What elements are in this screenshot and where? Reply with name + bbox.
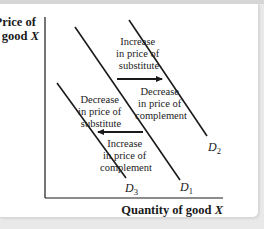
demand-shift-diagram: Price of good X Quantity of good X D2 D1… bbox=[0, 0, 264, 229]
y-axis-label: Price of good X bbox=[0, 15, 40, 43]
x-axis-label: Quantity of good X bbox=[121, 203, 223, 217]
rightward-shift-cause-above: Increase in price of substitute bbox=[116, 36, 162, 71]
leftward-shift-cause-below: Increase in price of complement bbox=[100, 138, 152, 173]
curve-label-d3: D3 bbox=[124, 181, 138, 197]
curve-label-d2: D2 bbox=[207, 140, 221, 156]
curve-label-d1: D1 bbox=[179, 180, 193, 196]
rightward-shift-cause-below: Decrease in price of complement bbox=[135, 86, 187, 121]
leftward-shift-cause-above: Decrease in price of substitute bbox=[78, 94, 124, 129]
